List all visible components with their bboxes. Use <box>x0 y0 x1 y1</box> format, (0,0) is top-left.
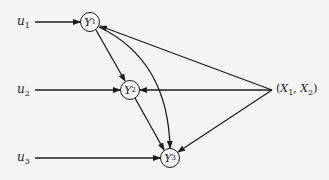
node-y2-label: Y2 <box>121 81 139 99</box>
input-u1-label: u1 <box>17 15 30 30</box>
path-diagram: u1 u2 u3 Y1 Y2 Y3 (X1, X2) <box>0 0 329 180</box>
edge-y2-y3 <box>135 98 164 150</box>
input-u2-label: u2 <box>17 83 30 98</box>
input-u3-label: u3 <box>17 151 30 166</box>
node-y1-label: Y1 <box>81 13 99 31</box>
edge-x-y3 <box>178 90 272 152</box>
exogenous-x-label: (X1, X2) <box>276 83 317 97</box>
edge-y1-y2 <box>96 30 125 81</box>
node-y3-label: Y3 <box>161 149 179 167</box>
